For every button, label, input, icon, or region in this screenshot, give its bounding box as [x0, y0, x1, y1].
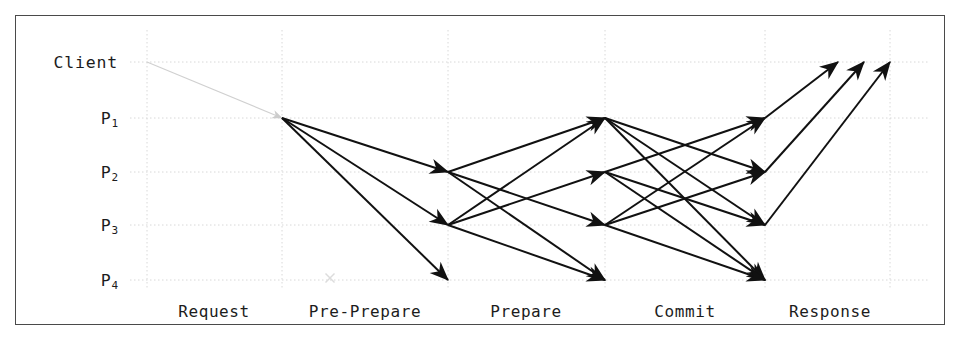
participant-label-client: Client [0, 53, 118, 72]
message-response-p1-to-client [765, 62, 838, 118]
phase-label-pre-prepare: Pre-Prepare [309, 302, 422, 321]
message-commit-p2-to-p4 [605, 172, 765, 280]
message-prepare-p3-to-p1 [448, 118, 605, 225]
message-prepare-p3-to-p4 [448, 225, 605, 280]
fault-marker-x-icon [326, 274, 335, 283]
message-pre-prepare-p1-to-p2 [282, 118, 448, 172]
participant-label-p2: P2 [0, 163, 118, 182]
participant-label-p3: P3 [0, 216, 118, 235]
pbft-protocol-figure: ClientP1P2P3P4 RequestPre-PreparePrepare… [0, 0, 961, 348]
sequence-diagram-canvas [0, 0, 961, 348]
message-pre-prepare-p1-to-p4 [282, 118, 448, 280]
phase-label-commit: Commit [654, 302, 715, 321]
participant-index-p3: 3 [111, 224, 118, 237]
phase-label-request: Request [178, 302, 250, 321]
participant-index-p4: 4 [111, 279, 118, 292]
participant-label-p4: P4 [0, 271, 118, 290]
participant-index-p2: 2 [111, 171, 118, 184]
grid-vertical-lines [147, 30, 890, 290]
participant-index-p1: 1 [111, 117, 118, 130]
message-response-p3-to-client [765, 62, 890, 225]
message-commit-p3-to-p4 [605, 225, 765, 280]
message-arrows [147, 62, 890, 280]
message-response-p2-to-client [765, 62, 864, 172]
phase-label-prepare: Prepare [490, 302, 562, 321]
phase-label-response: Response [789, 302, 871, 321]
message-prepare-p2-to-p4 [448, 172, 605, 280]
message-request-client-to-p1 [147, 62, 282, 118]
participant-label-p1: P1 [0, 109, 118, 128]
grid-horizontal-lines [130, 62, 930, 280]
message-prepare-p2-to-p1 [448, 118, 605, 172]
